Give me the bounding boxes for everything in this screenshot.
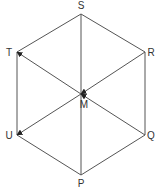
vector-qm-arrow-icon [81,94,145,135]
vertex-label-s: S [78,0,85,11]
hexagon-diagram: S R Q P U T M [0,0,159,188]
centre-label-m: M [80,99,88,110]
vector-rm-arrow-icon [81,52,145,94]
edge-ts [17,14,81,52]
edge-qp [81,135,145,175]
edge-pu [17,135,81,175]
vertex-label-p: P [78,178,85,188]
vertex-label-u: U [5,130,12,141]
vertex-label-q: Q [147,130,155,141]
vector-mu-arrow-icon [17,94,81,135]
vertex-label-t: T [6,47,12,58]
edge-sr [81,14,145,52]
vector-mt-arrow-icon [17,52,81,94]
vertex-label-r: R [147,47,154,58]
